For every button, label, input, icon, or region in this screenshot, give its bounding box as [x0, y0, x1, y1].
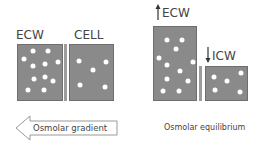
solute-particle — [157, 56, 162, 61]
solute-particle — [213, 88, 218, 93]
solute-particle — [31, 49, 36, 54]
solute-particle — [165, 77, 170, 82]
solute-particle — [26, 88, 31, 93]
ecw-label-right: ECW — [162, 7, 190, 19]
ecw-compartment-left — [17, 44, 63, 101]
osmolar-gradient-label: Osmolar gradient — [33, 124, 107, 133]
solute-particle — [77, 59, 82, 64]
solute-particle — [165, 38, 170, 43]
solute-particle — [103, 85, 108, 90]
solute-particle — [161, 89, 166, 94]
cell-membrane-left — [64, 44, 67, 101]
solute-particle — [43, 75, 48, 80]
solute-particle — [32, 77, 37, 82]
solute-particle — [165, 63, 170, 68]
solute-particle — [51, 79, 56, 84]
solute-particle — [239, 71, 244, 76]
solute-particle — [91, 68, 96, 73]
cell-label: CELL — [74, 29, 103, 41]
solute-particle — [104, 60, 109, 65]
solute-particle — [225, 79, 230, 84]
solute-particle — [56, 60, 61, 65]
solute-particle — [22, 57, 27, 62]
osmolar-equilibrium-label: Osmolar equilibrium — [164, 124, 245, 132]
solute-particle — [178, 69, 183, 74]
icw-label: ICW — [212, 50, 236, 62]
solute-particle — [177, 89, 182, 94]
solute-particle — [238, 90, 243, 95]
solute-particle — [174, 47, 179, 52]
solute-particle — [46, 49, 51, 54]
cell-membrane-right — [199, 66, 202, 101]
solute-particle — [42, 88, 47, 93]
solute-particle — [78, 83, 83, 88]
solute-particle — [212, 75, 217, 80]
solute-particle — [31, 64, 36, 69]
ecw-label-left: ECW — [16, 29, 44, 41]
down-arrow-icon — [205, 46, 211, 63]
up-arrow-icon — [155, 4, 161, 21]
solute-particle — [180, 38, 185, 43]
solute-particle — [43, 62, 48, 67]
solute-particle — [191, 60, 196, 65]
cell-compartment — [69, 44, 114, 101]
solute-particle — [186, 79, 191, 84]
